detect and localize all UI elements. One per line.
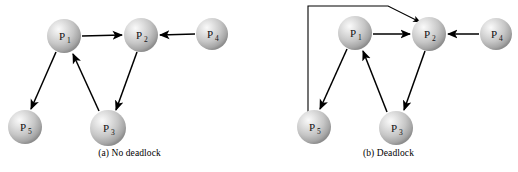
node-p1-label: P <box>350 27 356 39</box>
edge-p3-to-p1 <box>363 51 387 112</box>
node-p2[interactable]: P 2 <box>412 17 446 51</box>
node-p4-subscript: 4 <box>499 34 503 43</box>
node-p1-subscript: 1 <box>358 33 362 42</box>
node-p4[interactable]: P 4 <box>480 18 512 50</box>
deadlock-figure: P 1 P 2 P 4 P 5 P 3 <box>0 0 518 172</box>
panel-b-caption: (b) Deadlock <box>259 148 518 158</box>
node-p1-subscript: 1 <box>67 36 71 45</box>
node-p3-label: P <box>103 122 109 134</box>
edge-p1-to-p5 <box>320 49 347 109</box>
node-p3-subscript: 3 <box>111 128 115 137</box>
node-p1[interactable]: P 1 <box>338 16 372 50</box>
panel-deadlock: P 1 P 2 P 4 P 5 P 3 <box>259 0 518 172</box>
edge-p2-to-p3 <box>404 51 425 110</box>
edge-p3-to-p1 <box>73 54 99 111</box>
node-p1-label: P <box>59 30 65 42</box>
node-p2-subscript: 2 <box>432 34 436 43</box>
node-p2-label: P <box>424 28 430 40</box>
node-p2-subscript: 2 <box>144 35 148 44</box>
node-p5-subscript: 5 <box>28 127 32 136</box>
node-p5[interactable]: P 5 <box>8 110 42 144</box>
node-p2-label: P <box>136 29 142 41</box>
edge-p2-to-p3 <box>116 52 137 110</box>
edge-p1-to-p5 <box>31 52 56 109</box>
node-p5-label: P <box>20 121 26 133</box>
graph-no-deadlock: P 1 P 2 P 4 P 5 P 3 <box>0 0 259 150</box>
panel-no-deadlock: P 1 P 2 P 4 P 5 P 3 <box>0 0 259 172</box>
node-p4-label: P <box>207 28 213 40</box>
panel-a-caption: (a) No deadlock <box>0 148 259 158</box>
node-p5[interactable]: P 5 <box>297 110 331 144</box>
node-p4-label: P <box>491 28 497 40</box>
node-p3[interactable]: P 3 <box>90 110 126 146</box>
node-p2[interactable]: P 2 <box>124 18 158 52</box>
node-p4-subscript: 4 <box>215 34 219 43</box>
node-p3-label: P <box>391 122 397 134</box>
node-p1[interactable]: P 1 <box>47 19 81 53</box>
node-p4[interactable]: P 4 <box>196 18 228 50</box>
graph-deadlock: P 1 P 2 P 4 P 5 P 3 <box>259 0 518 150</box>
node-p5-label: P <box>309 121 315 133</box>
node-p3-subscript: 3 <box>399 128 403 137</box>
node-p3[interactable]: P 3 <box>379 111 413 145</box>
edge-p4-to-p2 <box>160 34 195 35</box>
edge-p1-to-p2 <box>82 35 122 36</box>
node-p5-subscript: 5 <box>317 127 321 136</box>
